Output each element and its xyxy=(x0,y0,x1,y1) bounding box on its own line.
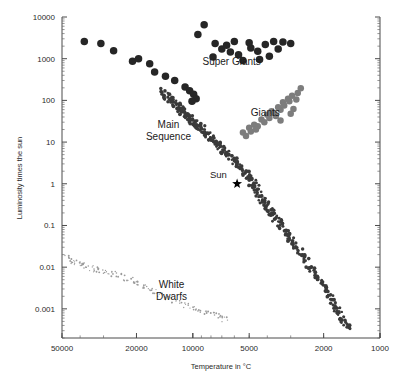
data-point xyxy=(337,314,339,316)
data-point xyxy=(199,310,201,312)
data-point xyxy=(163,89,167,93)
data-point xyxy=(227,157,230,160)
data-point xyxy=(188,98,196,106)
data-point xyxy=(211,40,219,48)
annotation-main-sequence: Main xyxy=(158,119,180,130)
data-point xyxy=(218,313,220,315)
data-point xyxy=(189,307,190,308)
data-point xyxy=(333,304,337,308)
data-point xyxy=(201,127,204,130)
data-point xyxy=(250,178,253,181)
data-points xyxy=(64,21,351,330)
data-point xyxy=(261,119,268,126)
data-point xyxy=(194,31,202,39)
data-point xyxy=(181,107,184,110)
data-point xyxy=(322,281,325,284)
data-point xyxy=(76,260,78,262)
data-point xyxy=(255,181,258,184)
data-point xyxy=(115,271,116,272)
data-point xyxy=(74,261,75,262)
data-point xyxy=(260,190,263,193)
y-tick-label: 100 xyxy=(42,96,56,105)
data-point xyxy=(207,311,209,313)
data-point xyxy=(203,124,206,127)
data-point xyxy=(74,264,75,265)
data-point xyxy=(277,117,284,124)
annotation-sun: Sun xyxy=(210,169,227,180)
data-point xyxy=(185,304,186,305)
data-point xyxy=(228,153,231,156)
data-point xyxy=(287,40,295,48)
y-tick-label: 1000 xyxy=(37,55,55,64)
y-tick-label: 0.1 xyxy=(44,221,56,230)
data-point xyxy=(184,113,188,117)
data-point xyxy=(174,102,177,105)
data-point xyxy=(123,279,125,281)
data-point xyxy=(286,234,289,237)
y-tick-label: 0.01 xyxy=(39,263,55,272)
data-point xyxy=(64,255,65,256)
data-point xyxy=(97,40,105,48)
data-point xyxy=(227,48,235,56)
data-point xyxy=(257,184,260,187)
data-point xyxy=(111,272,112,273)
data-point xyxy=(204,313,206,315)
data-point xyxy=(152,292,154,294)
data-point xyxy=(196,119,199,122)
data-point xyxy=(245,169,249,173)
data-point xyxy=(288,239,291,242)
data-point xyxy=(241,172,244,175)
data-point xyxy=(89,270,90,271)
data-point xyxy=(112,273,114,275)
data-point xyxy=(135,55,143,63)
data-point xyxy=(341,311,343,313)
data-point xyxy=(116,272,118,274)
data-point xyxy=(187,304,189,306)
data-point xyxy=(281,225,284,228)
data-point xyxy=(235,156,239,160)
data-point xyxy=(251,185,254,188)
data-point xyxy=(132,277,134,279)
x-tick-label: 20000 xyxy=(125,344,148,353)
data-point xyxy=(167,92,171,96)
data-point xyxy=(151,288,153,290)
data-point xyxy=(151,68,159,76)
data-point xyxy=(304,259,307,262)
data-point xyxy=(117,276,119,278)
annotation-white-dwarfs: Dwarfs xyxy=(156,291,187,302)
data-point xyxy=(254,48,262,56)
data-point xyxy=(200,311,201,312)
data-point xyxy=(279,38,287,46)
data-point xyxy=(162,72,170,80)
data-point xyxy=(254,194,258,198)
annotation-main-sequence: Sequence xyxy=(146,131,191,142)
data-point xyxy=(115,276,117,278)
series-super-giants xyxy=(81,21,295,105)
data-point xyxy=(235,163,239,167)
data-point xyxy=(149,289,150,290)
series-white-dwarfs xyxy=(64,255,228,323)
data-point xyxy=(230,154,233,157)
data-point xyxy=(286,98,293,105)
data-point xyxy=(297,249,300,252)
data-point xyxy=(110,275,112,277)
data-point xyxy=(255,191,259,195)
x-tick-label: 1000 xyxy=(371,344,389,353)
data-point xyxy=(278,226,280,228)
data-point xyxy=(266,209,270,213)
data-point xyxy=(245,39,253,47)
data-point xyxy=(108,273,109,274)
data-point xyxy=(87,265,89,267)
data-point xyxy=(241,169,244,172)
data-point xyxy=(294,245,297,248)
data-point xyxy=(342,324,345,327)
data-point xyxy=(83,267,85,269)
data-point xyxy=(342,315,345,318)
data-point xyxy=(68,255,70,257)
data-point xyxy=(137,281,139,283)
data-point xyxy=(204,136,207,139)
data-point xyxy=(221,150,225,154)
annotation-giants: Giants xyxy=(251,107,280,118)
data-point xyxy=(137,284,139,286)
data-point xyxy=(231,38,239,46)
